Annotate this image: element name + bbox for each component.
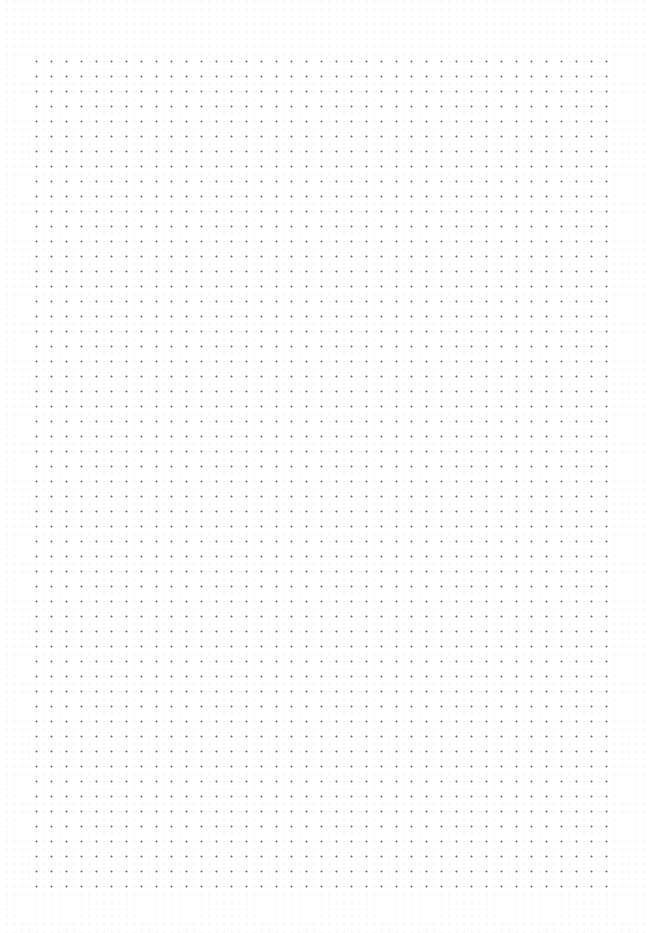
page-canvas (0, 0, 649, 933)
dot-grid (29, 54, 616, 896)
